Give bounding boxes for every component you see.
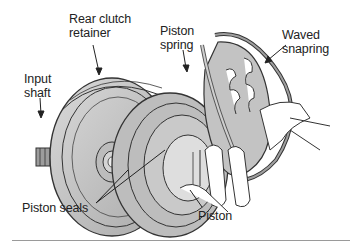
label-input-shaft: Input shaft	[24, 72, 51, 100]
label-waved-snapring: Waved snapring	[282, 28, 329, 56]
label-rear-clutch-retainer: Rear clutch retainer	[69, 12, 131, 40]
diagram-figure: Rear clutch retainer Input shaft Piston …	[0, 0, 358, 244]
label-piston-spring: Piston spring	[160, 24, 194, 52]
label-piston: Piston	[198, 209, 232, 223]
caption-divider	[12, 240, 350, 241]
label-piston-seals: Piston seals	[22, 201, 88, 215]
